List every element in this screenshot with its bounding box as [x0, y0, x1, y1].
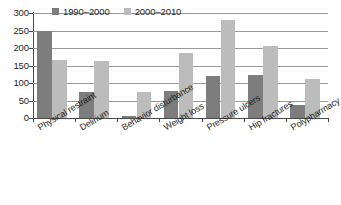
y-axis-tick-label: 300: [3, 8, 29, 18]
x-axis-tick-mark: [117, 118, 118, 122]
x-axis-tick-mark: [159, 118, 160, 122]
gridline: [33, 31, 328, 32]
y-axis-tick-label: 0: [3, 113, 29, 123]
legend-label: 2000–2010: [135, 7, 182, 17]
legend-entry: 1990–2000: [52, 7, 110, 17]
bar: [221, 20, 236, 118]
y-axis-tick-label: 100: [3, 78, 29, 88]
gridline: [33, 48, 328, 49]
x-axis-tick-mark: [328, 118, 329, 122]
legend-entry: 2000–2010: [124, 7, 182, 17]
x-axis-tick-mark: [202, 118, 203, 122]
y-axis-tick-label: 250: [3, 26, 29, 36]
y-axis-tick-label: 150: [3, 61, 29, 71]
y-axis-labels: 050100150200250300: [0, 0, 29, 205]
legend-swatch-icon: [52, 8, 59, 15]
bar: [37, 31, 52, 118]
x-axis-tick-mark: [286, 118, 287, 122]
chart-legend: 1990–20002000–2010: [52, 7, 181, 17]
x-axis-tick-mark: [33, 118, 34, 122]
y-axis-tick-label: 50: [3, 96, 29, 106]
x-axis-tick-mark: [75, 118, 76, 122]
x-axis-tick-mark: [244, 118, 245, 122]
bar: [206, 76, 221, 118]
legend-swatch-icon: [124, 8, 131, 15]
legend-label: 1990–2000: [63, 7, 110, 17]
y-axis-tick-label: 200: [3, 43, 29, 53]
